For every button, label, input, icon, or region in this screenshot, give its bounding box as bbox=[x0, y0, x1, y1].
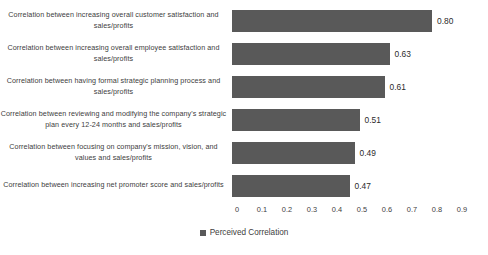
bar-track: 0.49 bbox=[232, 136, 488, 169]
x-axis-tick-label: 0.8 bbox=[432, 205, 442, 214]
bar-row: Correlation between reviewing and modify… bbox=[0, 103, 488, 136]
bar-track: 0.47 bbox=[232, 169, 488, 202]
bar[interactable] bbox=[232, 43, 390, 65]
bar-row: Correlation between increasing overall e… bbox=[0, 37, 488, 70]
bar[interactable] bbox=[232, 109, 360, 131]
bar-row: Correlation between increasing overall c… bbox=[0, 4, 488, 37]
bar-value-label: 0.47 bbox=[355, 181, 371, 191]
category-label: Correlation between reviewing and modify… bbox=[0, 109, 232, 130]
bar-value-label: 0.61 bbox=[390, 82, 406, 92]
bar-track: 0.61 bbox=[232, 70, 488, 103]
legend-item-label: Perceived Correlation bbox=[210, 228, 289, 237]
x-axis-tick-label: 0.7 bbox=[407, 205, 417, 214]
x-axis-tick-label: 0.3 bbox=[307, 205, 317, 214]
x-axis-tick-label: 0.9 bbox=[457, 205, 467, 214]
bar[interactable] bbox=[232, 142, 355, 164]
category-label: Correlation between increasing net promo… bbox=[0, 180, 232, 191]
bar[interactable] bbox=[232, 10, 432, 32]
bar-chart: Correlation between increasing overall c… bbox=[0, 0, 488, 255]
x-axis-tick-label: 0.4 bbox=[332, 205, 342, 214]
bar-row: Correlation between having formal strate… bbox=[0, 70, 488, 103]
bar-value-label: 0.80 bbox=[437, 16, 453, 26]
square-swatch-icon bbox=[200, 230, 206, 236]
x-axis-tick-label: 0.1 bbox=[257, 205, 267, 214]
x-axis-tick-label: 0.6 bbox=[382, 205, 392, 214]
category-label: Correlation between increasing overall e… bbox=[0, 43, 232, 64]
x-axis-tick-label: 0 bbox=[235, 205, 239, 214]
plot-area: Correlation between increasing overall c… bbox=[0, 0, 488, 205]
bar[interactable] bbox=[232, 76, 385, 98]
bar-value-label: 0.51 bbox=[365, 115, 381, 125]
category-label: Correlation between focusing on company'… bbox=[0, 142, 232, 163]
chart-legend: Perceived Correlation bbox=[0, 228, 488, 237]
bar-track: 0.80 bbox=[232, 4, 488, 37]
category-label: Correlation between increasing overall c… bbox=[0, 10, 232, 31]
bar-value-label: 0.63 bbox=[395, 49, 411, 59]
category-label: Correlation between having formal strate… bbox=[0, 76, 232, 97]
bar-row: Correlation between focusing on company'… bbox=[0, 136, 488, 169]
bar[interactable] bbox=[232, 175, 350, 197]
bar-row: Correlation between increasing net promo… bbox=[0, 169, 488, 202]
legend-item-perceived-correlation[interactable]: Perceived Correlation bbox=[200, 228, 289, 237]
x-axis: 00.10.20.30.40.50.60.70.80.9 bbox=[237, 205, 463, 219]
x-axis-tick-label: 0.2 bbox=[282, 205, 292, 214]
x-axis-tick-label: 0.5 bbox=[357, 205, 367, 214]
bar-track: 0.51 bbox=[232, 103, 488, 136]
bar-value-label: 0.49 bbox=[360, 148, 376, 158]
bar-track: 0.63 bbox=[232, 37, 488, 70]
